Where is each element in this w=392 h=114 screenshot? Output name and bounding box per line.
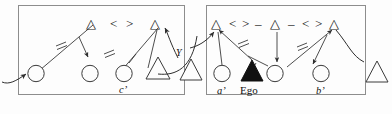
left-top-angle-open: < (110, 17, 117, 30)
right-top-triangle-1: △ (211, 17, 221, 30)
right-top-angle-open-1: < (229, 17, 236, 30)
right-top-angle-close-1: > (242, 17, 249, 30)
right-top-triangle-mid: △ (270, 17, 280, 30)
circle-node-3 (116, 65, 132, 81)
right-top-angle-close-2: > (315, 17, 322, 30)
left-panel-circle-nodes (28, 65, 132, 81)
right-panel-circle-nodes (214, 65, 329, 81)
right-agreement-ticks (238, 40, 308, 51)
right-top-triangle-2: △ (329, 17, 339, 30)
left-agreement-ticks (56, 42, 115, 58)
ego-filled-triangle (241, 60, 263, 81)
label-a-prime: a’ (217, 86, 226, 97)
left-incoming-arrow (2, 74, 26, 83)
label-c-prime: c’ (119, 85, 127, 96)
circle-node-b-prime (313, 65, 329, 81)
left-top-angle-close: > (126, 17, 133, 30)
left-top-triangle-2: △ (150, 17, 160, 30)
right-top-angle-open-2: < (302, 17, 309, 30)
label-b-prime: b’ (316, 86, 325, 97)
label-ego: Ego (240, 85, 258, 96)
right-outgoing-curve (336, 30, 364, 62)
right-top-dash-2: – (288, 17, 295, 30)
circle-node-2 (82, 65, 98, 81)
circle-node-a-prime (214, 65, 230, 81)
between-triangle-left (180, 59, 202, 80)
right-incoming-arrow (190, 32, 214, 48)
figure-canvas: △ < > △ c’ Y △ < > – △ – < > △ a’ Ego b’ (0, 0, 392, 114)
left-panel-edges (40, 25, 158, 70)
circle-node-1 (28, 65, 44, 81)
left-top-triangle-1: △ (86, 17, 96, 30)
right-panel-edges (218, 30, 332, 70)
outer-triangle-right (366, 61, 388, 82)
link-label-y: Y (176, 48, 182, 58)
right-top-dash-1: – (255, 17, 262, 30)
circle-node-mid (267, 65, 283, 81)
